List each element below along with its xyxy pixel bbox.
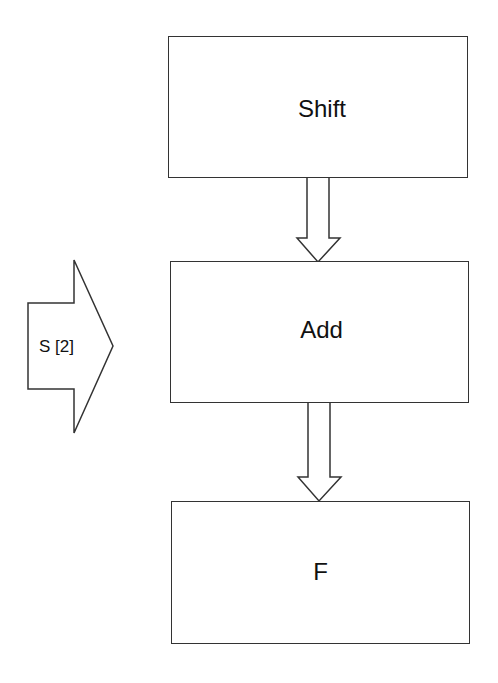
down-arrow-add-to-f — [298, 402, 341, 501]
node-shift-label: Shift — [298, 95, 346, 123]
node-add: Add — [170, 261, 469, 403]
node-f-label: F — [313, 558, 328, 586]
node-shift: Shift — [168, 36, 468, 178]
node-add-label: Add — [300, 316, 343, 344]
node-f: F — [171, 501, 470, 644]
down-arrow-shift-to-add — [297, 177, 340, 262]
side-input-label: S [2] — [39, 337, 74, 357]
